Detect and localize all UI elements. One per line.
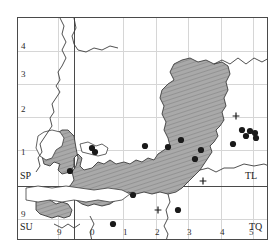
bottom-tick-label: 2 <box>155 228 160 237</box>
bottom-tick-label: 1 <box>123 228 128 237</box>
record-dot <box>165 144 171 150</box>
left-tick-label: 1 <box>21 148 26 157</box>
record-dot <box>239 127 245 133</box>
bottom-tick-label: 0 <box>90 228 95 237</box>
old-record-cross <box>155 207 162 214</box>
bottom-tick-label: 9 <box>57 228 62 237</box>
bottom-tick-label: 4 <box>220 228 225 237</box>
record-dot <box>192 156 198 162</box>
record-dot <box>243 133 249 139</box>
distribution-map: 43219 9012345 SPSUTLTQ <box>0 0 280 244</box>
left-tick-label: 9 <box>21 210 26 219</box>
bottom-tick-label: 3 <box>187 228 192 237</box>
left-tick-label: 3 <box>21 70 26 79</box>
record-dot <box>230 141 236 147</box>
grid-square-label-tl: TL <box>245 171 257 181</box>
record-dot <box>178 137 184 143</box>
grid-square-label-sp: SP <box>20 171 31 181</box>
old-record-cross <box>233 113 240 120</box>
map-frame <box>17 17 268 240</box>
grid-square-label-tq: TQ <box>249 222 262 232</box>
record-dot <box>67 168 73 174</box>
left-tick-label: 4 <box>21 42 26 51</box>
record-dot <box>110 221 116 227</box>
record-dot <box>253 135 259 141</box>
record-dot <box>175 207 181 213</box>
left-tick-label: 2 <box>21 105 26 114</box>
record-dot <box>142 143 148 149</box>
grid-square-label-su: SU <box>20 222 33 232</box>
record-dot <box>130 192 136 198</box>
record-markers-layer <box>18 18 268 240</box>
record-dot <box>92 149 98 155</box>
record-dot <box>198 147 204 153</box>
old-record-cross <box>200 178 207 185</box>
